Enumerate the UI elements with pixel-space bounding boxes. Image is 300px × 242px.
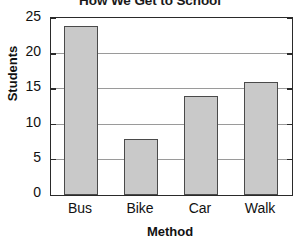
y-tick-label: 5 (5, 149, 41, 165)
chart-title: How We Get to School (0, 0, 300, 8)
y-tick-label: 15 (5, 78, 41, 94)
y-axis-tick-mark-right (287, 53, 292, 54)
plot-area (50, 17, 293, 196)
y-axis-tick-mark (51, 53, 56, 54)
bar-walk (244, 82, 278, 195)
y-axis-title: Students (5, 19, 20, 129)
x-axis-title: Method (45, 224, 295, 239)
bar-chart-screenshot: How We Get to School Students 0510152025… (0, 0, 300, 242)
y-tick-label: 10 (5, 114, 41, 130)
bar-car (184, 96, 218, 195)
y-axis-tick-mark (51, 18, 56, 19)
y-tick-label: 25 (5, 8, 41, 24)
y-axis-tick-mark (51, 159, 56, 160)
y-tick-label: 20 (5, 43, 41, 59)
y-axis-tick-mark (51, 88, 56, 89)
y-axis-tick-mark-right (287, 124, 292, 125)
y-axis-tick-mark-right (287, 18, 292, 19)
y-axis-tick-mark-right (287, 88, 292, 89)
y-tick-label: 0 (5, 184, 41, 200)
y-axis-tick-mark (51, 124, 56, 125)
y-axis-tick-mark-right (287, 159, 292, 160)
x-tick-label-walk: Walk (225, 200, 295, 216)
bar-bike (124, 139, 158, 195)
bar-bus (64, 26, 98, 195)
